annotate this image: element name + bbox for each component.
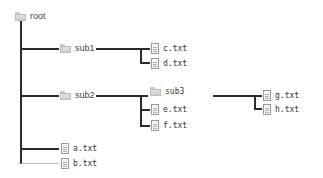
folder-icon	[60, 91, 71, 100]
file-icon	[263, 104, 271, 115]
file-icon	[61, 158, 69, 169]
file-label: c.txt	[163, 44, 187, 53]
sub1-label: sub1	[75, 43, 95, 53]
h-branch-line	[254, 108, 262, 110]
folder-icon	[60, 44, 71, 53]
d-branch-line	[140, 62, 150, 64]
sub1-branch-line	[21, 48, 59, 50]
file-label: b.txt	[73, 159, 97, 168]
sub2-branch-line	[21, 95, 59, 97]
file-icon	[151, 120, 159, 131]
sub1-out-line	[96, 48, 140, 50]
folder-icon	[150, 87, 161, 96]
file-icon	[151, 43, 159, 54]
sub2-node[interactable]: sub2	[60, 88, 95, 102]
file-icon	[263, 90, 271, 101]
a-branch-line	[21, 148, 59, 150]
file-e-node[interactable]: e.txt	[151, 102, 187, 116]
file-label: d.txt	[163, 59, 187, 68]
file-h-node[interactable]: h.txt	[263, 102, 299, 116]
file-icon	[151, 104, 159, 115]
file-label: a.txt	[73, 144, 97, 153]
sub1-node[interactable]: sub1	[60, 41, 95, 55]
file-label: f.txt	[163, 121, 187, 130]
root-label: root	[30, 11, 46, 21]
root-node[interactable]: root	[15, 9, 46, 23]
sub3-label: sub3	[165, 87, 184, 96]
root-trunk-line	[20, 21, 22, 164]
sub3-node[interactable]: sub3	[150, 84, 184, 98]
file-icon	[61, 143, 69, 154]
b-branch-line	[21, 163, 59, 164]
file-g-node[interactable]: g.txt	[263, 88, 299, 102]
sub3-vertical-line	[254, 95, 256, 109]
file-label: e.txt	[163, 105, 187, 114]
folder-icon	[15, 12, 26, 21]
file-f-node[interactable]: f.txt	[151, 118, 187, 132]
g-branch-line	[254, 95, 262, 97]
file-d-node[interactable]: d.txt	[151, 56, 187, 70]
file-a-node[interactable]: a.txt	[61, 141, 97, 155]
sub2-vertical-line	[140, 95, 142, 126]
c-branch-line	[140, 48, 150, 50]
file-label: h.txt	[275, 105, 299, 114]
file-b-node[interactable]: b.txt	[61, 156, 97, 170]
sub2-label: sub2	[75, 90, 95, 100]
sub1-vertical-line	[140, 48, 142, 63]
file-label: g.txt	[275, 91, 299, 100]
f-branch-line	[140, 125, 150, 127]
e-branch-line	[140, 109, 150, 111]
sub3-out-line	[213, 95, 254, 97]
file-c-node[interactable]: c.txt	[151, 41, 187, 55]
file-icon	[151, 58, 159, 69]
